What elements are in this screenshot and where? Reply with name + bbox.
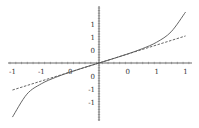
- y-tick-label: -1: [88, 99, 95, 107]
- x-tick-label: -1: [38, 68, 45, 76]
- x-tick-label: -1: [9, 68, 16, 76]
- x-tick-label: 0: [126, 68, 130, 76]
- axes: [8, 6, 192, 121]
- y-tick-label: 1: [91, 21, 95, 29]
- function-plot: -1-10011 1100-1-1: [0, 0, 199, 128]
- y-tick-label: 1: [91, 34, 95, 42]
- x-tick-label: 1: [183, 68, 187, 76]
- x-tick-label: 1: [154, 68, 158, 76]
- x-tick-labels: -1-10011: [9, 68, 188, 76]
- y-tick-label: 0: [91, 73, 95, 81]
- y-tick-labels: 1100-1-1: [88, 21, 95, 107]
- y-tick-label: 0: [91, 47, 95, 55]
- y-tick-label: -1: [88, 86, 95, 94]
